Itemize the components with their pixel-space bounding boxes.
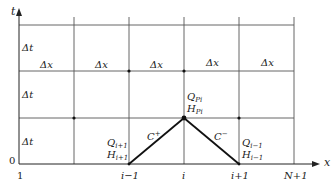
row-label-dt-top: Δt — [22, 43, 33, 53]
characteristic-grid-diagram: t x 0 1 i−1 i i+1 N+1 Δt Δt Δt Δx Δx Δx … — [0, 0, 334, 187]
col-label-dx-1: Δx — [40, 60, 53, 70]
t-axis-arrow-icon — [16, 8, 22, 16]
x-tick-i-plus-1: i+1 — [231, 171, 249, 181]
grid-svg — [0, 0, 334, 187]
h-apex-label: HPi — [187, 104, 203, 116]
col-label-dx-4: Δx — [206, 58, 219, 68]
col-label-dx-3: Δx — [150, 60, 163, 70]
t-axis-label: t — [11, 6, 15, 17]
node-dots — [72, 69, 240, 165]
x-tick-1: 1 — [17, 171, 23, 181]
col-label-dx-5: Δx — [261, 58, 274, 68]
x-axis — [19, 161, 320, 167]
horizontal-grid-lines — [19, 25, 294, 118]
node-dot-icon — [182, 69, 185, 72]
node-dot-icon — [72, 116, 75, 119]
c-plus-label: C+ — [147, 131, 161, 142]
apex-point-icon — [182, 116, 187, 121]
x-axis-arrow-icon — [312, 161, 320, 167]
node-dot-icon — [127, 69, 130, 72]
c-minus-label: C− — [214, 131, 228, 142]
row-label-dt-middle: Δt — [22, 90, 33, 100]
foot-point-left-icon — [128, 163, 131, 166]
h-left-label: Hi+1 — [107, 150, 128, 162]
x-tick-n-plus-1: N+1 — [284, 171, 308, 181]
c-minus-line — [184, 118, 239, 164]
origin-label: 0 — [9, 156, 15, 166]
node-dot-icon — [237, 116, 240, 119]
foot-point-right-icon — [238, 163, 241, 166]
x-tick-i-minus-1: i−1 — [121, 171, 139, 181]
col-label-dx-2: Δx — [95, 60, 108, 70]
x-axis-label: x — [324, 157, 330, 168]
h-right-label: Hi−1 — [242, 150, 263, 162]
x-tick-i: i — [182, 171, 185, 181]
row-label-dt-bottom: Δt — [22, 137, 33, 147]
